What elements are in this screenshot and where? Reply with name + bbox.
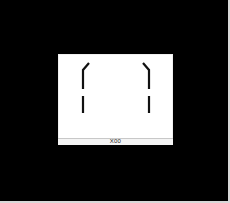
status-label: X00 (58, 137, 173, 145)
dark-viewport: X00 (0, 0, 228, 201)
left-bracket-icon (83, 63, 89, 113)
preview-panel: X00 (58, 54, 173, 145)
right-bracket-icon (143, 63, 149, 113)
bracket-marks-graphic (58, 54, 173, 145)
